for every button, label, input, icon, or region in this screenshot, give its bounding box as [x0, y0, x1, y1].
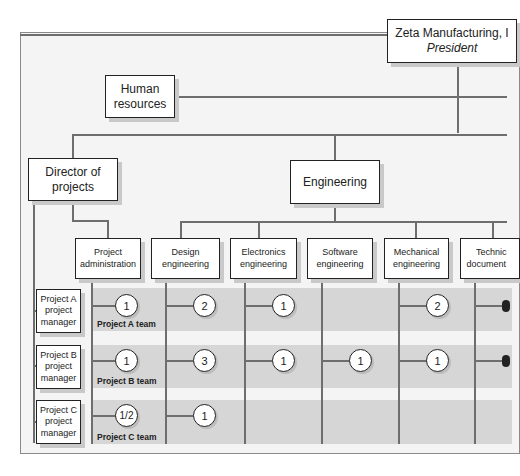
dept-label: Mechanical: [393, 247, 440, 258]
engineering-label: Engineering: [303, 175, 367, 190]
stub: [244, 360, 274, 362]
connector: [174, 96, 507, 98]
president-name: Zeta Manufacturing, I: [395, 26, 508, 41]
director-box: Director ofprojects: [28, 158, 118, 201]
team-label-c: Project C team: [97, 432, 157, 442]
dept-project-administration: Projectadministration: [75, 238, 141, 279]
connector: [72, 220, 109, 222]
dept-label: Software: [316, 247, 363, 258]
stub: [398, 360, 428, 362]
connector: [258, 221, 260, 239]
dept-mechanical-engineering: Mechanicalengineering: [384, 238, 449, 279]
dept-design-engineering: Designengineering: [151, 238, 220, 279]
count-circle: 1: [349, 349, 372, 372]
count-circle: 1/2: [115, 404, 138, 427]
stub: [165, 360, 195, 362]
manager-label: Project A: [40, 294, 76, 305]
hr-box: Humanresources: [105, 75, 175, 118]
hr-label-1: Human: [114, 82, 167, 97]
director-label-2: projects: [45, 180, 100, 195]
stub: [165, 305, 195, 307]
engineering-box: Engineering: [290, 160, 380, 204]
count-circle: 1: [193, 404, 216, 427]
dept-software-engineering: Softwareengineering: [307, 238, 373, 279]
stub: [474, 305, 504, 307]
stub: [321, 360, 351, 362]
dept-label: Design: [162, 247, 209, 258]
connector: [33, 200, 35, 443]
connector: [457, 63, 459, 133]
dept-label: Electronics: [240, 247, 287, 258]
manager-label: Project B: [40, 350, 77, 361]
dept-electronics-engineering: Electronicsengineering: [230, 238, 297, 279]
dept-label: engineering: [316, 259, 363, 270]
dept-label: document: [466, 259, 507, 270]
manager-label: project: [40, 361, 77, 372]
stub: [474, 360, 504, 362]
connector: [415, 221, 417, 239]
connector: [180, 221, 507, 223]
dept-label: engineering: [240, 259, 287, 270]
dept-label: Project: [80, 247, 136, 258]
director-label-1: Director of: [45, 165, 100, 180]
manager-label: manager: [40, 373, 77, 384]
count-circle: 1: [115, 294, 138, 317]
connector: [107, 220, 109, 238]
count-circle: 1: [115, 349, 138, 372]
project-c-manager-box: Project Cprojectmanager: [36, 400, 81, 444]
count-circle: 2: [426, 294, 449, 317]
manager-label: project: [40, 416, 77, 427]
manager-label: manager: [40, 428, 77, 439]
manager-label: project: [40, 305, 76, 316]
connector: [72, 134, 74, 158]
connector: [72, 200, 74, 222]
stub: [244, 305, 274, 307]
connector: [180, 221, 182, 239]
count-circle: 1: [426, 349, 449, 372]
count-circle: 1: [272, 294, 295, 317]
project-a-manager-box: Project Aprojectmanager: [36, 289, 81, 333]
stub: [398, 305, 428, 307]
count-circle: 2: [193, 294, 216, 317]
team-label-a: Project A team: [97, 319, 156, 329]
dept-technical-documentation: Technicdocument: [460, 238, 520, 279]
president-role: President: [395, 41, 508, 56]
connector: [72, 134, 507, 136]
manager-label: manager: [40, 317, 76, 328]
stub: [165, 415, 195, 417]
connector: [492, 221, 494, 239]
connector: [334, 134, 336, 162]
count-circle-partial: [502, 355, 510, 367]
dept-label: Technic: [466, 247, 507, 258]
stub: [91, 415, 116, 417]
dept-label: engineering: [162, 259, 209, 270]
stub: [91, 360, 116, 362]
count-circle: 3: [193, 349, 216, 372]
manager-label: Project C: [40, 405, 77, 416]
team-label-b: Project B team: [97, 376, 157, 386]
connector: [20, 34, 387, 36]
dept-label: engineering: [393, 259, 440, 270]
project-b-manager-box: Project Bprojectmanager: [36, 345, 81, 389]
connector: [334, 203, 336, 223]
president-box: Zeta Manufacturing, IPresident: [387, 19, 517, 63]
count-circle: 1: [272, 349, 295, 372]
dept-label: administration: [80, 259, 136, 270]
stub: [91, 305, 116, 307]
count-circle-partial: [502, 300, 510, 312]
hr-label-2: resources: [114, 97, 167, 112]
